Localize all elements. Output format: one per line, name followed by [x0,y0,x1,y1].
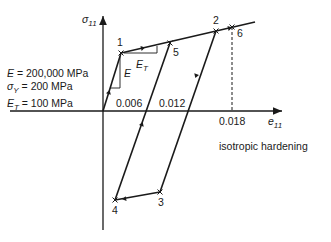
point-label-4: 4 [112,204,118,216]
point-label-3: 3 [158,196,164,208]
stress-strain-diagram: σ11 e11 E ET 0.006 0.012 0.018 [0,0,331,242]
point-label-6: 6 [237,27,243,39]
param-youngs-modulus: E = 200,000 MPa [7,67,88,80]
tick-label-0018: 0.018 [219,115,245,127]
tick-label-0006: 0.006 [116,97,142,109]
hardening-type-label: isotropic hardening [219,140,308,152]
tick-label-0012: 0.012 [159,97,185,109]
y-axis-label: σ11 [82,13,97,28]
x-axis-label: e11 [268,115,282,130]
elastic-modulus-label: E [124,67,132,79]
param-tangent-modulus: ET = 100 MPa [7,97,88,115]
material-parameters: E = 200,000 MPa σY = 200 MPa ET = 100 MP… [7,67,88,115]
point-label-1: 1 [117,36,123,48]
point-label-2: 2 [213,14,219,26]
tangent-modulus-label: ET [136,58,149,73]
param-yield-stress: σY = 200 MPa [7,80,88,98]
point-label-5: 5 [173,46,179,58]
